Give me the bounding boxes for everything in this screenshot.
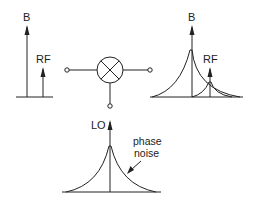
- input-spectrum-panel: B RF: [16, 11, 53, 97]
- phase-noise-label-line1: phase: [133, 135, 162, 147]
- output-port: [148, 68, 152, 72]
- rf-phase-noise-skirt: [192, 82, 232, 97]
- output-rf-arrow: [208, 67, 213, 97]
- lo-arrow: [108, 120, 113, 192]
- blocker-phase-noise-skirt: [152, 50, 240, 97]
- output-rf-label: RF: [203, 53, 218, 65]
- lo-spectrum-panel: LO phase noise: [62, 119, 162, 192]
- input-rf-arrow: [41, 67, 46, 97]
- input-blocker-arrow: [25, 25, 30, 97]
- output-blocker-label: B: [188, 11, 195, 23]
- lo-port: [108, 104, 112, 108]
- input-blocker-label: B: [23, 11, 30, 23]
- input-port: [65, 68, 69, 72]
- phase-noise-pointer-arrow: [127, 161, 141, 174]
- input-rf-label: RF: [36, 53, 51, 65]
- lo-label: LO: [91, 119, 106, 131]
- output-spectrum-panel: B RF: [150, 11, 243, 97]
- phase-noise-label-line2: noise: [134, 147, 159, 159]
- mixer-reciprocal-mixing-diagram: B RF: [0, 0, 255, 205]
- mixer-x-circle-icon: [97, 57, 123, 83]
- mixer: [65, 57, 152, 108]
